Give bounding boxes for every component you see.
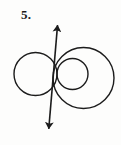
figure-container: 5. <box>0 0 121 145</box>
right-large-circle <box>53 48 114 109</box>
curve-group <box>14 48 114 109</box>
left-circle <box>14 53 57 96</box>
geometry-figure-svg <box>0 0 121 145</box>
right-small-circle <box>57 59 88 90</box>
